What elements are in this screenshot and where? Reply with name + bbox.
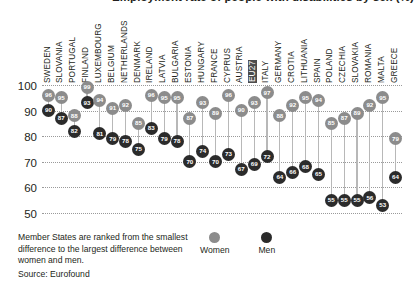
data-point-men[interactable]: 70 [183,155,196,168]
data-point-men[interactable]: 73 [222,148,235,161]
connector-line [279,116,280,177]
data-point-men[interactable]: 67 [235,163,248,176]
data-point-women[interactable]: 85 [325,117,338,130]
y-axis-tick: 100 [18,80,37,92]
data-point-women[interactable]: 92 [119,99,132,112]
data-point-women[interactable]: 95 [55,91,68,104]
category-label: SLOVAKIA [351,42,360,83]
data-point-women[interactable]: 87 [338,112,351,125]
data-point-men[interactable]: 83 [145,122,158,135]
data-point-men[interactable]: 64 [389,171,402,184]
data-point-men[interactable]: 82 [68,125,81,138]
category-label: BULGARIA [171,40,180,83]
data-point-men[interactable]: 74 [196,145,209,158]
data-point-women[interactable]: 99 [81,81,94,94]
category-label: AUSTRIA [235,46,244,83]
data-point-men[interactable]: 53 [376,199,389,212]
data-point-women[interactable]: 97 [261,86,274,99]
data-point-men[interactable]: 72 [261,150,274,163]
data-point-men[interactable]: 55 [325,194,338,207]
data-point-women[interactable]: 88 [68,109,81,122]
category-label: LITHUANIA [300,39,309,83]
gridline: 50 [42,213,402,214]
data-point-women[interactable]: 89 [209,107,222,120]
connector-line [382,98,383,206]
data-point-women[interactable]: 96 [222,89,235,102]
category-label: LUXEMBOURG [94,23,103,83]
data-point-women[interactable]: 96 [145,89,158,102]
category-label: CROTIA [287,51,296,83]
data-point-women[interactable]: 95 [158,91,171,104]
connector-line [228,95,229,154]
y-axis-tick: 80 [24,131,37,143]
data-point-men[interactable]: 69 [248,158,261,171]
category-label: ESTONIA [184,46,193,83]
legend-label-men: Men [258,245,275,255]
category-label: NETHERLANDS [120,20,129,83]
category-label: EU27 [248,60,257,83]
data-point-women[interactable]: 90 [235,104,248,117]
data-point-men[interactable]: 79 [106,132,119,145]
connector-line [369,105,370,197]
legend-item-women: Women [200,232,229,255]
category-label: CZECHIA [338,46,347,83]
gridline: 100 [42,85,402,86]
chart-legend: Women Men [200,232,275,255]
category-label: ITALY [261,61,270,83]
y-axis-tick: 90 [24,106,37,118]
connector-line [292,105,293,172]
data-point-men[interactable]: 55 [338,194,351,207]
y-axis-tick: 60 [24,182,37,194]
data-point-men[interactable]: 66 [286,166,299,179]
connector-line [344,118,345,200]
data-point-women[interactable]: 93 [248,96,261,109]
category-label: SPAIN [313,58,322,83]
category-label: BELGIUM [107,45,116,83]
data-point-men[interactable]: 68 [299,160,312,173]
data-point-women[interactable]: 89 [351,107,364,120]
data-point-women[interactable]: 95 [171,91,184,104]
chart-source: Source: Eurofound [18,269,90,279]
data-point-women[interactable]: 88 [273,109,286,122]
data-point-men[interactable]: 55 [351,194,364,207]
data-point-men[interactable]: 79 [158,132,171,145]
data-point-men[interactable]: 87 [55,112,68,125]
data-point-women[interactable]: 96 [42,89,55,102]
data-point-men[interactable]: 78 [171,135,184,148]
connector-line [266,93,267,157]
data-point-men[interactable]: 90 [42,104,55,117]
data-point-women[interactable]: 87 [183,112,196,125]
data-point-women[interactable]: 79 [389,132,402,145]
data-point-women[interactable]: 95 [376,91,389,104]
category-label: SWEDEN [43,46,52,83]
category-label: CYPRUS [223,48,232,83]
data-point-women[interactable]: 93 [196,96,209,109]
category-label: SLOVANIA [55,41,64,83]
data-point-men[interactable]: 93 [81,96,94,109]
category-label: DENMARK [133,41,142,83]
data-point-men[interactable]: 65 [312,168,325,181]
data-point-men[interactable]: 78 [119,135,132,148]
category-label: LATVIA [158,54,167,83]
category-label: POLAND [325,48,334,83]
data-point-men[interactable]: 81 [93,127,106,140]
data-point-women[interactable]: 94 [312,94,325,107]
data-point-women[interactable]: 91 [106,102,119,115]
data-point-women[interactable]: 85 [132,117,145,130]
data-point-women[interactable]: 94 [93,94,106,107]
legend-label-women: Women [200,245,229,255]
category-label: PORTUGAL [68,37,77,83]
data-point-women[interactable]: 95 [299,91,312,104]
connector-line [241,111,242,170]
category-labels: SWEDENSLOVANIAPORTUGALFINLANDLUXEMBOURGB… [42,0,402,85]
data-point-men[interactable]: 64 [273,171,286,184]
connector-line [356,113,357,200]
gridline: 70 [42,162,402,163]
data-point-men[interactable]: 56 [363,191,376,204]
category-label: FINLAND [81,47,90,83]
data-point-men[interactable]: 70 [209,155,222,168]
chart-note: Member States are ranked from the smalle… [18,232,193,267]
data-point-men[interactable]: 75 [132,143,145,156]
connector-line [254,103,255,164]
